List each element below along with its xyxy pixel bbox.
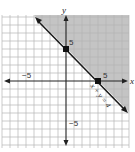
x-axis-label: x xyxy=(129,76,134,86)
y-axis-label: y xyxy=(61,5,66,15)
shaded-solution-region xyxy=(34,15,129,112)
y-tick-label-5: 5 xyxy=(69,38,74,47)
coordinate-graph: y x −5 5 5 −5 x + y = 4 xyxy=(0,0,135,152)
x-tick-label-neg5: −5 xyxy=(22,71,32,80)
x-tick-label-5: 5 xyxy=(103,71,108,80)
y-tick-label-neg5: −5 xyxy=(69,119,79,128)
